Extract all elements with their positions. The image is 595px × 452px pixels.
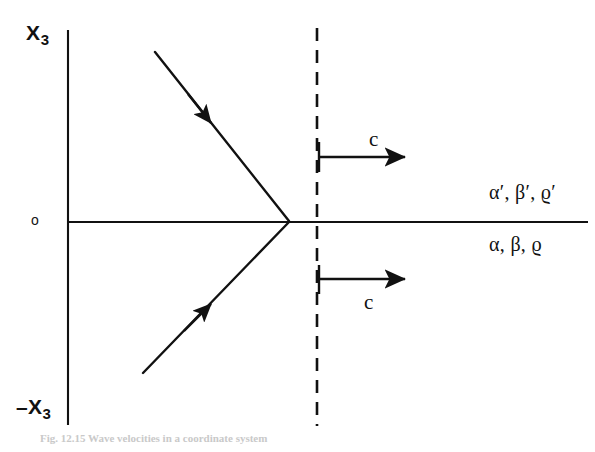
- axis-label-x3-negative-subscript: 3: [43, 405, 52, 422]
- axis-label-x3-positive: X3: [26, 22, 49, 47]
- media-label-primed: α′, β′, ϱ′: [489, 182, 556, 202]
- incident-ray-lower-arrowhead: [184, 304, 211, 331]
- axis-label-x3-positive-text: X: [26, 21, 40, 44]
- incident-ray-upper-arrowhead: [188, 94, 211, 123]
- axis-label-x3-negative: –X3: [16, 396, 51, 421]
- wave-diagram: [0, 0, 595, 452]
- figure-container: X3 –X3 o c c α′, β′, ϱ′ α, β, ϱ Fig. 12.…: [0, 0, 595, 452]
- media-label-plain: α, β, ϱ: [489, 234, 542, 254]
- axis-label-x3-negative-text: –X: [16, 395, 42, 418]
- speed-label-lower: c: [364, 292, 373, 313]
- incident-ray-lower: [143, 222, 289, 373]
- incident-ray-upper: [155, 52, 289, 221]
- figure-caption: Fig. 12.15 Wave velocities in a coordina…: [40, 432, 580, 446]
- axis-label-x3-positive-subscript: 3: [41, 31, 50, 48]
- origin-label: o: [31, 213, 39, 227]
- speed-label-upper: c: [369, 129, 378, 150]
